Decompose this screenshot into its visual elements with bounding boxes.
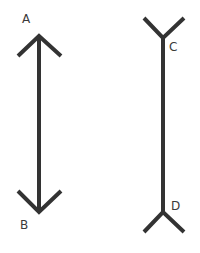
label-b: B	[20, 218, 28, 232]
fin-c-icon	[144, 18, 184, 38]
figure-ab: A B	[18, 12, 61, 232]
label-d: D	[171, 199, 180, 213]
label-c: C	[169, 40, 177, 54]
figure-cd: C D	[144, 18, 184, 232]
fin-d-icon	[144, 212, 184, 232]
label-a: A	[22, 12, 31, 26]
muller-lyer-diagram: A B C D	[0, 0, 200, 253]
